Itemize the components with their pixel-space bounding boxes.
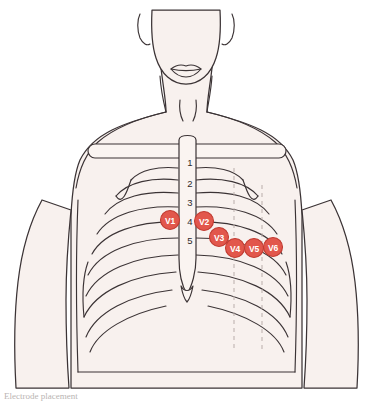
rib-number-4: 4 (187, 216, 192, 227)
right-arm (302, 200, 358, 388)
lead-label-v4: V4 (230, 244, 240, 254)
rib-number-2: 2 (187, 178, 192, 189)
lead-marker-v1[interactable]: V1 (161, 211, 180, 230)
figure-caption: Electrode placement (4, 391, 364, 401)
lead-marker-v5[interactable]: V5 (245, 239, 264, 258)
left-ear (138, 14, 150, 45)
right-ear (222, 14, 234, 45)
left-arm (15, 200, 71, 388)
lead-marker-v3[interactable]: V3 (210, 228, 229, 247)
rib-number-1: 1 (187, 157, 192, 168)
lead-label-v5: V5 (249, 244, 259, 254)
rib-number-5: 5 (187, 235, 192, 246)
lead-label-v3: V3 (214, 233, 224, 243)
rib-number-3: 3 (187, 197, 192, 208)
lead-marker-v2[interactable]: V2 (195, 212, 214, 231)
lead-marker-v6[interactable]: V6 (264, 238, 283, 257)
lead-label-v2: V2 (199, 217, 209, 227)
lead-label-v6: V6 (268, 243, 278, 253)
lead-marker-v4[interactable]: V4 (226, 239, 245, 258)
figure-root: 1 2 3 4 5 V1 V2 V3 V4 (0, 0, 373, 401)
anatomy-illustration: 1 2 3 4 5 V1 V2 V3 V4 (0, 0, 373, 401)
lead-label-v1: V1 (165, 216, 175, 226)
